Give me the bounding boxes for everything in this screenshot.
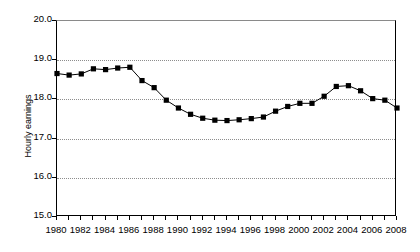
x-axis-tick-label: 1988 xyxy=(143,224,164,235)
x-axis-tick-label: 1986 xyxy=(118,224,139,235)
data-point-marker xyxy=(188,112,193,117)
data-point-marker xyxy=(139,78,144,83)
data-point-marker xyxy=(370,96,375,101)
x-axis-tick xyxy=(202,216,203,220)
x-axis-tick xyxy=(396,216,397,220)
data-point-marker xyxy=(394,105,399,110)
data-point-marker xyxy=(297,101,302,106)
data-point-marker xyxy=(334,84,339,89)
chart-container: Hourly earnings 15.016.017.018.019.020.0… xyxy=(0,0,420,252)
y-axis-tick xyxy=(52,59,56,60)
series-line xyxy=(57,67,397,120)
y-axis-tick-label: 19.0 xyxy=(22,52,52,63)
x-axis-tick-label: 1984 xyxy=(94,224,115,235)
y-axis-tick xyxy=(52,177,56,178)
y-axis-tick xyxy=(52,98,56,99)
data-point-marker xyxy=(212,118,217,123)
data-point-marker xyxy=(91,66,96,71)
data-point-marker xyxy=(79,71,84,76)
data-point-marker xyxy=(67,73,72,78)
x-axis-tick-label: 1996 xyxy=(240,224,261,235)
x-axis-tick-label: 2002 xyxy=(313,224,334,235)
y-axis-tick xyxy=(52,20,56,21)
x-axis-tick-label: 1998 xyxy=(264,224,285,235)
data-point-marker xyxy=(200,116,205,121)
x-axis-tick xyxy=(117,216,118,220)
x-axis-tick-label: 1994 xyxy=(215,224,236,235)
x-axis-tick xyxy=(105,216,106,220)
x-axis-tick-label: 2006 xyxy=(361,224,382,235)
data-point-marker xyxy=(164,98,169,103)
data-point-marker xyxy=(176,105,181,110)
x-axis-tick xyxy=(190,216,191,220)
y-axis-tick-label: 17.0 xyxy=(22,131,52,142)
data-point-marker xyxy=(224,118,229,123)
x-axis-tick xyxy=(372,216,373,220)
data-point-marker xyxy=(54,71,59,76)
x-axis-tick xyxy=(177,216,178,220)
data-point-marker xyxy=(346,83,351,88)
y-axis-tick-label: 15.0 xyxy=(22,209,52,220)
x-axis-tick xyxy=(92,216,93,220)
data-point-marker xyxy=(285,104,290,109)
series-hourly-earnings xyxy=(57,21,397,217)
y-axis-tick xyxy=(52,138,56,139)
x-axis-tick xyxy=(141,216,142,220)
data-point-marker xyxy=(249,116,254,121)
x-axis-tick xyxy=(56,216,57,220)
x-axis-tick-label: 2008 xyxy=(385,224,406,235)
plot-area xyxy=(56,20,396,216)
x-axis-tick xyxy=(153,216,154,220)
x-axis-tick xyxy=(347,216,348,220)
x-axis-tick xyxy=(311,216,312,220)
x-axis-tick xyxy=(335,216,336,220)
x-axis-tick xyxy=(287,216,288,220)
x-axis-tick xyxy=(323,216,324,220)
data-point-marker xyxy=(261,114,266,119)
x-axis-tick-label: 2000 xyxy=(288,224,309,235)
data-point-marker xyxy=(103,67,108,72)
x-axis-tick xyxy=(238,216,239,220)
x-axis-tick xyxy=(214,216,215,220)
x-axis-tick xyxy=(299,216,300,220)
y-axis-tick-label: 18.0 xyxy=(22,91,52,102)
x-axis-tick xyxy=(226,216,227,220)
data-point-marker xyxy=(358,88,363,93)
x-axis-tick xyxy=(68,216,69,220)
x-axis-tick xyxy=(262,216,263,220)
x-axis-tick-label: 2004 xyxy=(337,224,358,235)
x-axis-tick xyxy=(360,216,361,220)
x-axis-tick xyxy=(129,216,130,220)
x-axis-tick-label: 1990 xyxy=(167,224,188,235)
y-axis-tick-label: 16.0 xyxy=(22,170,52,181)
data-point-marker xyxy=(309,101,314,106)
data-point-marker xyxy=(115,65,120,70)
x-axis-tick-label: 1980 xyxy=(45,224,66,235)
x-axis-tick xyxy=(165,216,166,220)
x-axis-tick-label: 1982 xyxy=(70,224,91,235)
x-axis-tick xyxy=(275,216,276,220)
data-point-marker xyxy=(382,98,387,103)
x-axis-tick xyxy=(250,216,251,220)
x-axis-tick xyxy=(384,216,385,220)
y-axis-tick-label: 20.0 xyxy=(22,13,52,24)
data-point-marker xyxy=(237,117,242,122)
data-point-marker xyxy=(273,109,278,114)
x-axis-tick-label: 1992 xyxy=(191,224,212,235)
data-point-marker xyxy=(127,65,132,70)
data-point-marker xyxy=(152,85,157,90)
x-axis-tick xyxy=(80,216,81,220)
data-point-marker xyxy=(322,94,327,99)
